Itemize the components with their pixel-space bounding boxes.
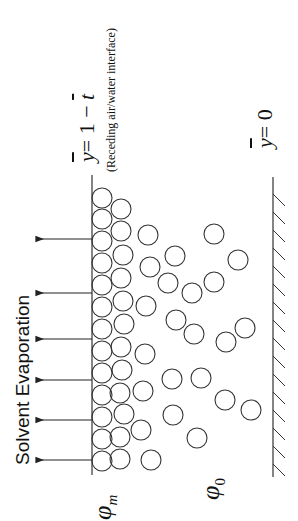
particles xyxy=(92,188,261,471)
interface-eq-var: t xyxy=(74,94,99,100)
substrate-eq-rhs: = 0 xyxy=(252,109,277,138)
phi-m-label: φm xyxy=(88,495,121,520)
evaporation-arrows xyxy=(42,239,92,460)
phi-0-label: φ0 xyxy=(196,478,229,500)
interface-eq-rhs: = 1 − xyxy=(74,100,99,152)
interface-equation: y= 1 − t xyxy=(74,94,100,162)
film-drying-diagram: Solvent Evaporation y= 1 − t (Receding a… xyxy=(0,0,298,521)
diagram-canvas xyxy=(0,0,298,521)
substrate-eq-lhs: y xyxy=(252,138,277,148)
interface-eq-lhs: y xyxy=(74,152,99,162)
substrate-hatching xyxy=(273,194,285,476)
interface-caption: (Receding air/water interface) xyxy=(104,28,119,172)
substrate-equation: y= 0 xyxy=(252,109,278,148)
solvent-evaporation-title: Solvent Evaporation xyxy=(12,295,34,465)
